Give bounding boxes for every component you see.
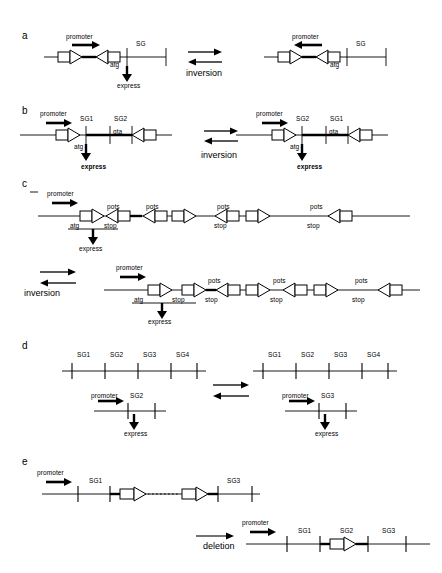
panel-e-graphics [0,0,442,573]
figure-canvas: a promoter SG atg express inversion prom… [0,0,442,573]
